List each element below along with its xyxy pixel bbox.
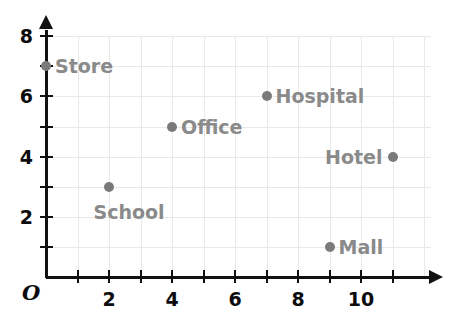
y-axis-tick — [40, 186, 53, 188]
y-axis-tick — [40, 126, 53, 128]
data-point[interactable] — [388, 152, 398, 162]
x-axis-tick — [234, 270, 236, 283]
data-point-label: School — [93, 203, 164, 222]
x-axis-tick — [297, 270, 299, 283]
y-axis-tick — [40, 246, 53, 248]
x-axis-tick-label: 6 — [228, 290, 241, 309]
y-axis-tick — [40, 156, 53, 158]
y-axis-tick — [40, 95, 53, 97]
data-point[interactable] — [167, 122, 177, 132]
data-point-label: Mall — [339, 237, 384, 256]
origin-label: O — [22, 282, 40, 303]
y-axis-tick-label: 8 — [20, 27, 33, 46]
y-axis-tick-label: 6 — [20, 87, 33, 106]
x-axis-tick — [360, 270, 362, 283]
x-axis-line — [46, 276, 432, 279]
x-axis-tick — [140, 270, 142, 283]
data-point-label: Store — [55, 57, 113, 76]
y-axis-tick-label: 4 — [20, 147, 33, 166]
x-axis-tick — [77, 270, 79, 283]
x-axis-tick — [203, 270, 205, 283]
x-axis-tick — [171, 270, 173, 283]
x-axis-tick — [266, 270, 268, 283]
y-axis-arrow-icon — [39, 15, 53, 29]
scatter-plot-figure: 2468102468 O StoreSchoolOfficeHospitalHo… — [0, 0, 465, 330]
x-axis-tick-label: 10 — [348, 290, 374, 309]
x-axis-tick — [108, 270, 110, 283]
data-point-label: Hotel — [325, 147, 382, 166]
y-axis-tick-label: 2 — [20, 207, 33, 226]
x-axis-tick — [392, 270, 394, 283]
data-point[interactable] — [104, 182, 114, 192]
x-axis-tick — [329, 270, 331, 283]
gridline-horizontal — [46, 96, 431, 97]
y-axis-tick — [40, 35, 53, 37]
x-axis-tick-label: 4 — [165, 290, 178, 309]
gridline-horizontal — [46, 36, 431, 37]
data-point-label: Office — [181, 117, 243, 136]
y-axis-tick — [40, 216, 53, 218]
x-axis-tick-label: 8 — [291, 290, 304, 309]
data-point-label: Hospital — [276, 87, 365, 106]
data-point[interactable] — [325, 242, 335, 252]
x-axis-arrow-icon — [429, 270, 443, 284]
data-point[interactable] — [262, 91, 272, 101]
x-axis-tick-label: 2 — [102, 290, 115, 309]
